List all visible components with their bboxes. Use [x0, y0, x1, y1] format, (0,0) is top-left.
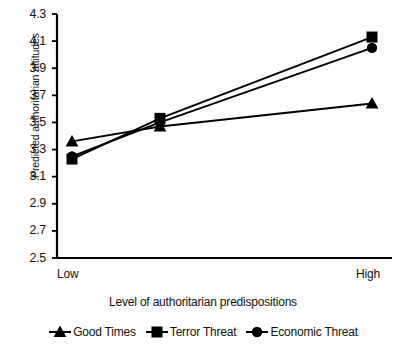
- series-line: [72, 37, 372, 159]
- chart-legend: Good TimesTerror ThreatEconomic Threat: [0, 325, 406, 339]
- chart-container: Predicted authoritarian attitudes 4.34.1…: [0, 0, 406, 349]
- legend-item-label: Terror Threat: [170, 325, 237, 339]
- data-point-marker-circle: [155, 117, 165, 127]
- series-layer: [66, 32, 379, 165]
- series-line: [72, 103, 372, 141]
- x-axis-title: Level of authoritarian predispositions: [0, 295, 406, 309]
- data-point-marker-triangle: [366, 97, 379, 108]
- data-point-marker-circle: [252, 327, 262, 337]
- series-good-times: [66, 97, 379, 146]
- legend-item[interactable]: Terror Threat: [145, 325, 237, 339]
- series-terror-threat: [67, 32, 378, 165]
- legend-item-label: Good Times: [73, 325, 136, 339]
- x-axis-tick-label-low: Low: [57, 268, 78, 280]
- legend-item-label: Economic Threat: [270, 325, 358, 339]
- data-point-marker-square: [151, 327, 162, 338]
- data-point-marker-circle: [367, 43, 377, 53]
- series-line: [72, 48, 372, 156]
- series-economic-threat: [67, 43, 377, 162]
- data-point-marker-circle: [67, 151, 77, 161]
- data-point-marker-square: [367, 32, 378, 43]
- legend-marker-triangle-icon: [48, 326, 72, 338]
- legend-marker-square-icon: [145, 326, 169, 338]
- legend-item[interactable]: Economic Threat: [245, 325, 358, 339]
- legend-item[interactable]: Good Times: [48, 325, 136, 339]
- x-axis-tick-label-high: High: [356, 268, 380, 280]
- legend-marker-circle-icon: [245, 326, 269, 338]
